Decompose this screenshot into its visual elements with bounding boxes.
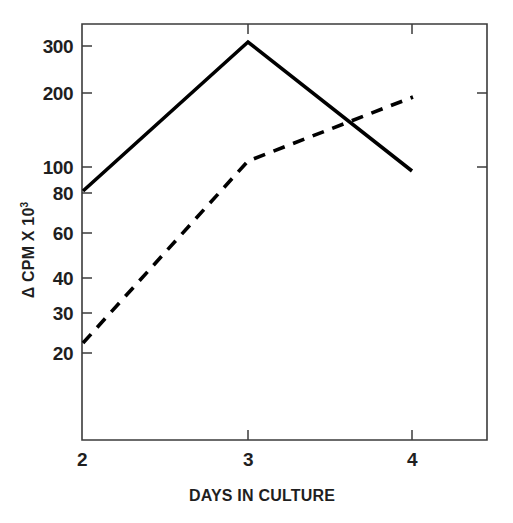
x-axis-tick-labels: 2 3 4: [77, 449, 418, 470]
x-axis-ticks: [248, 430, 412, 440]
y-tick-label-200: 200: [43, 83, 73, 104]
y-tick-label-80: 80: [53, 183, 73, 204]
y-tick-label-60: 60: [53, 223, 73, 244]
x-tick-label-4: 4: [407, 449, 418, 470]
y-axis-ticks: [82, 46, 92, 353]
y-axis-title-group: Δ CPM X 103: [19, 201, 37, 298]
y-tick-label-30: 30: [53, 303, 73, 324]
figure-container: 300 200 100 80 60 40 30 20 2 3 4 DAYS IN…: [0, 0, 513, 523]
y-axis-title: Δ CPM X 103: [19, 201, 37, 298]
y-tick-label-100: 100: [43, 157, 73, 178]
y-tick-label-300: 300: [43, 36, 73, 57]
x-axis-ticks-top: [248, 24, 412, 34]
y-axis-title-main: Δ CPM X 10: [20, 207, 37, 298]
y-axis-ticks-right: [477, 93, 487, 167]
y-axis-title-exp: 3: [19, 201, 30, 207]
line-chart: 300 200 100 80 60 40 30 20 2 3 4 DAYS IN…: [0, 0, 513, 523]
y-tick-label-20: 20: [53, 343, 73, 364]
x-tick-label-3: 3: [243, 449, 253, 470]
y-tick-label-40: 40: [53, 268, 73, 289]
x-axis-title: DAYS IN CULTURE: [189, 487, 335, 504]
plot-frame: [82, 24, 487, 440]
x-tick-label-2: 2: [77, 449, 87, 470]
y-axis-tick-labels: 300 200 100 80 60 40 30 20: [43, 36, 73, 364]
